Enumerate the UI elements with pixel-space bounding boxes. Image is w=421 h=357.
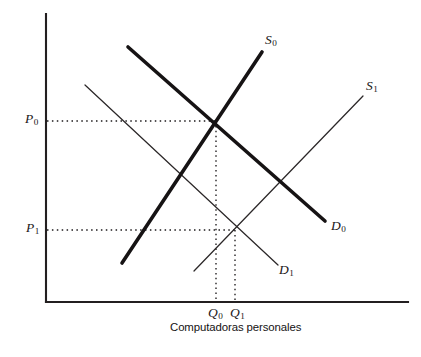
supply-demand-chart: S0 S1 D0 D1 P0 P1 Q0 Q1 Computadoras per… <box>0 0 421 357</box>
curve-label-d1: D1 <box>279 263 294 277</box>
chart-canvas <box>0 0 421 357</box>
equilibrium-guides <box>47 121 235 301</box>
x-tick-label-q1: Q1 <box>230 306 245 320</box>
x-tick-label-q0: Q0 <box>208 306 223 320</box>
curve-s1 <box>194 96 363 271</box>
curve-label-d0: D0 <box>331 219 346 233</box>
y-tick-label-p1: P1 <box>26 221 39 235</box>
curve-label-s0: S0 <box>265 33 277 47</box>
y-tick-label-p0: P0 <box>25 112 38 126</box>
curve-d0 <box>128 47 325 221</box>
curve-label-s1: S1 <box>366 79 378 93</box>
chart-axes <box>46 14 408 302</box>
curve-s0 <box>122 52 262 263</box>
x-axis-title: Computadoras personales <box>170 322 301 333</box>
curves-thin <box>85 85 363 271</box>
